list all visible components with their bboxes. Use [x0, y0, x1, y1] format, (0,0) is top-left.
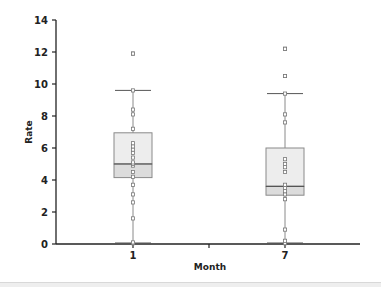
x-axis: 17 [56, 244, 360, 261]
data-point [131, 201, 134, 204]
data-point [283, 74, 286, 77]
data-point [131, 52, 134, 55]
data-point [283, 166, 286, 169]
y-tick-label: 4 [41, 175, 48, 186]
data-point [283, 239, 286, 242]
data-point [131, 127, 134, 130]
data-point [131, 148, 134, 151]
data-point [131, 170, 134, 173]
y-tick-label: 8 [41, 111, 48, 122]
data-point [283, 47, 286, 50]
data-point [131, 151, 134, 154]
data-point [131, 156, 134, 159]
y-tick-label: 12 [34, 47, 48, 58]
y-tick-label: 14 [34, 15, 48, 26]
data-point [131, 142, 134, 145]
data-point [283, 158, 286, 161]
data-point [283, 121, 286, 124]
data-point [283, 190, 286, 193]
bottom-divider [0, 282, 381, 287]
x-axis-title: Month [194, 262, 226, 272]
data-point [283, 162, 286, 165]
data-point [283, 92, 286, 95]
y-tick-label: 10 [34, 79, 48, 90]
y-axis-title: Rate [24, 120, 34, 143]
data-point [283, 193, 286, 196]
data-point [131, 183, 134, 186]
y-tick-label: 6 [41, 143, 48, 154]
box-month-7 [266, 47, 304, 245]
data-point [131, 161, 134, 164]
data-point [283, 113, 286, 116]
data-point [131, 175, 134, 178]
data-point [131, 113, 134, 116]
data-point [131, 145, 134, 148]
x-tick-label: 1 [130, 250, 137, 261]
data-point [131, 108, 134, 111]
data-point [131, 217, 134, 220]
box-plot-series [114, 47, 304, 245]
data-point [131, 89, 134, 92]
data-point [283, 170, 286, 173]
x-tick-label: 7 [282, 250, 289, 261]
data-point [283, 198, 286, 201]
data-point [131, 193, 134, 196]
data-point [283, 186, 286, 189]
data-point [131, 241, 134, 244]
y-tick-label: 2 [41, 207, 48, 218]
data-point [283, 183, 286, 186]
y-tick-label: 0 [41, 239, 48, 250]
y-axis: 02468101214 [34, 15, 56, 250]
box-month-1 [114, 52, 152, 245]
data-point [283, 228, 286, 231]
